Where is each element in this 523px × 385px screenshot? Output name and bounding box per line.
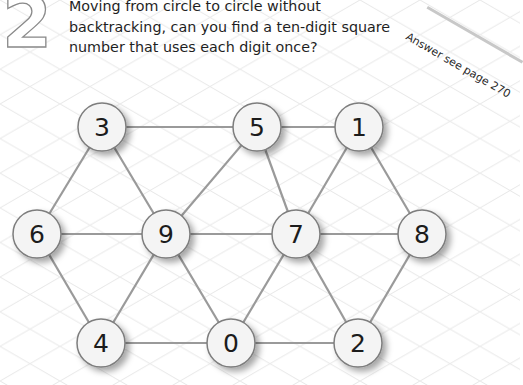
node-digit: 5 (249, 113, 265, 142)
circle-node-3: 3 (78, 103, 126, 151)
node-digit: 8 (414, 220, 430, 249)
circle-node-8: 8 (398, 210, 446, 258)
circle-node-6: 6 (13, 210, 61, 258)
node-digit: 4 (93, 329, 109, 358)
circle-node-0: 0 (207, 319, 255, 367)
node-digit: 7 (288, 220, 304, 249)
graph-edges (37, 127, 422, 343)
circle-node-7: 7 (272, 210, 320, 258)
node-digit: 0 (223, 329, 239, 358)
circle-node-1: 1 (335, 103, 383, 151)
node-digit: 6 (29, 220, 45, 249)
node-digit: 9 (158, 220, 174, 249)
node-digit: 1 (351, 113, 367, 142)
circle-node-9: 9 (142, 210, 190, 258)
circle-node-2: 2 (334, 319, 382, 367)
node-digit: 3 (94, 113, 110, 142)
node-digit: 2 (350, 329, 366, 358)
circle-node-5: 5 (233, 103, 281, 151)
circle-node-4: 4 (77, 319, 125, 367)
